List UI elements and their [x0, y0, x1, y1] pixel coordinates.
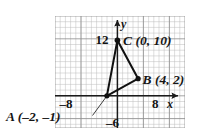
x-tick-label-8: 8: [152, 96, 159, 111]
point-label-c: C (0, 10): [123, 33, 171, 48]
x-tick-label-neg8: –8: [59, 96, 74, 111]
graph-canvas: 12 –8 8 –6 x y C (0, 10) B (4, 2) A (–2,…: [0, 0, 200, 140]
point-label-a: A (–2, –1): [5, 109, 60, 124]
point-label-b: B (4, 2): [142, 72, 185, 87]
x-axis-label: x: [166, 97, 173, 111]
y-tick-label-12: 12: [96, 32, 109, 47]
y-tick-label-neg6: –6: [105, 115, 120, 130]
coordinate-plane-figure: 12 –8 8 –6 x y C (0, 10) B (4, 2) A (–2,…: [0, 0, 200, 140]
vertex-point-c: [115, 37, 121, 43]
y-axis-label: y: [119, 17, 127, 31]
vertex-point-a: [104, 93, 109, 98]
vertex-point-b: [136, 76, 141, 81]
